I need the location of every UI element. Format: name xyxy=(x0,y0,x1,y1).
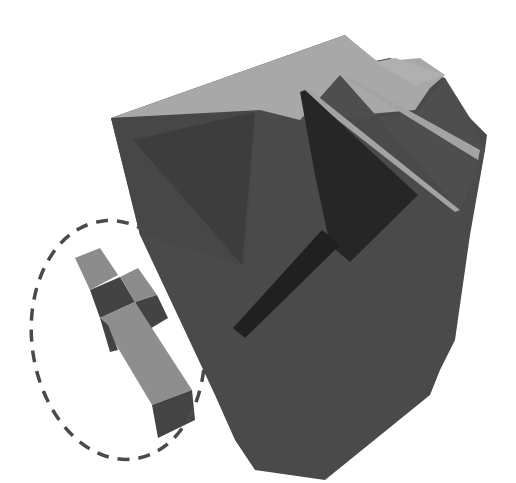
block-structure-figure xyxy=(0,0,516,483)
figure-canvas xyxy=(0,0,516,483)
